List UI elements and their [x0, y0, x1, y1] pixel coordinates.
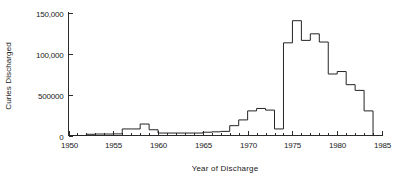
x-axis-tick-labels: 19501955196019651970197519801985	[61, 141, 392, 150]
x-tick-label-1950: 1950	[61, 141, 79, 150]
x-tick-label-1955: 1955	[105, 141, 123, 150]
y-axis-title: Curies Discharged	[4, 42, 13, 110]
y-axis-ticks	[69, 14, 73, 137]
y-tick-label-50000: 500000	[38, 92, 64, 101]
chart-figure: 0500000100,000150,000 195019551960196519…	[0, 0, 399, 180]
y-axis-tick-labels: 0500000100,000150,000	[36, 10, 64, 142]
x-tick-label-1960: 1960	[150, 141, 168, 150]
x-tick-label-1970: 1970	[240, 141, 258, 150]
y-tick-label-100000: 100,000	[36, 51, 64, 60]
x-axis-title: Year of Discharge	[192, 164, 259, 173]
x-tick-label-1965: 1965	[195, 141, 213, 150]
x-tick-label-1985: 1985	[374, 141, 392, 150]
x-tick-label-1980: 1980	[329, 141, 347, 150]
x-tick-label-1975: 1975	[284, 141, 302, 150]
curies-discharged-step-chart: 0500000100,000150,000 195019551960196519…	[0, 0, 399, 180]
data-series-curies-discharged	[69, 21, 374, 136]
y-tick-label-150000: 150,000	[36, 10, 64, 19]
